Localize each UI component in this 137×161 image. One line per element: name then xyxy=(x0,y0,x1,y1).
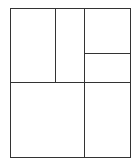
region-bottom-right xyxy=(85,83,131,158)
region-top-right-lower xyxy=(85,54,131,83)
region-bottom-left xyxy=(11,83,85,158)
partition-diagram xyxy=(0,0,137,161)
region-top-right-upper xyxy=(85,9,131,54)
region-top-left xyxy=(11,9,56,83)
region-top-middle xyxy=(56,9,85,83)
